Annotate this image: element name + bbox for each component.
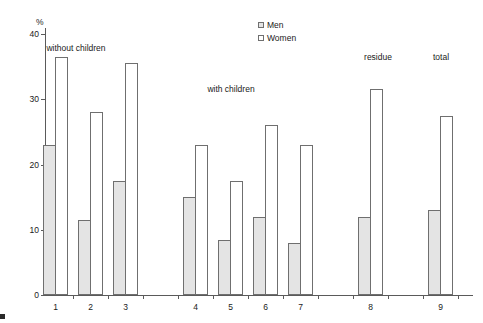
x-category-label-7: 7 <box>291 302 311 312</box>
bar-women-5 <box>230 181 243 295</box>
x-tick-1 <box>108 296 109 299</box>
y-tick-40 <box>41 34 45 35</box>
x-category-label-5: 5 <box>221 302 241 312</box>
corner-mark <box>0 314 5 319</box>
legend-item-men: Men <box>258 18 296 31</box>
y-tick-0 <box>41 295 45 296</box>
x-tick-0 <box>73 296 74 299</box>
x-tick-7 <box>318 296 319 299</box>
bar-women-8 <box>370 89 383 295</box>
y-tick-label-10: 10 <box>21 225 39 235</box>
x-tick-8 <box>353 296 354 299</box>
group-label-1: with children <box>207 84 254 94</box>
bar-chart: % MenWomen 010203040123456789without chi… <box>0 0 483 323</box>
y-tick-30 <box>41 99 45 100</box>
x-category-label-8: 8 <box>361 302 381 312</box>
legend-label-women: Women <box>267 33 296 43</box>
bar-women-9 <box>440 116 453 295</box>
y-tick-label-0: 0 <box>21 290 39 300</box>
x-category-label-6: 6 <box>256 302 276 312</box>
bar-women-7 <box>300 145 313 295</box>
bar-women-1 <box>55 57 68 295</box>
x-tick-9 <box>388 296 389 299</box>
x-category-label-1: 1 <box>46 302 66 312</box>
x-category-label-3: 3 <box>116 302 136 312</box>
legend-swatch-women <box>258 35 264 41</box>
x-axis-line <box>45 295 473 296</box>
legend-label-men: Men <box>267 20 284 30</box>
x-tick-10 <box>423 296 424 299</box>
x-tick-3 <box>178 296 179 299</box>
group-label-0: without children <box>46 43 105 53</box>
x-tick-6 <box>283 296 284 299</box>
x-tick-4 <box>213 296 214 299</box>
x-tick-2 <box>143 296 144 299</box>
y-tick-label-20: 20 <box>21 160 39 170</box>
x-tick-11 <box>458 296 459 299</box>
x-category-label-9: 9 <box>431 302 451 312</box>
x-category-label-2: 2 <box>81 302 101 312</box>
y-tick-label-30: 30 <box>21 94 39 104</box>
legend-swatch-men <box>258 22 264 28</box>
bar-women-3 <box>125 63 138 295</box>
y-axis-unit-label: % <box>36 17 44 27</box>
y-tick-label-40: 40 <box>21 29 39 39</box>
bar-women-4 <box>195 145 208 295</box>
x-tick-5 <box>248 296 249 299</box>
group-label-3: total <box>433 52 449 62</box>
legend-item-women: Women <box>258 31 296 44</box>
group-label-2: residue <box>364 52 392 62</box>
bar-women-6 <box>265 125 278 295</box>
legend: MenWomen <box>258 18 296 44</box>
bar-women-2 <box>90 112 103 295</box>
x-category-label-4: 4 <box>186 302 206 312</box>
